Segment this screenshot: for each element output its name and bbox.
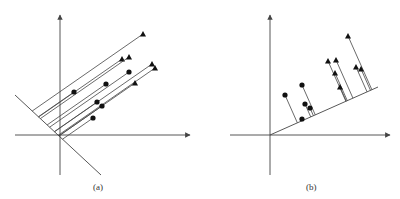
panel-b — [230, 15, 390, 175]
projection-line — [50, 72, 129, 127]
circle-point-icon — [282, 92, 287, 97]
projection-line — [328, 61, 346, 101]
projection-line — [336, 60, 353, 98]
caption-a: (a) — [93, 182, 103, 192]
projection-line — [40, 57, 129, 119]
triangle-point-icon — [126, 54, 132, 59]
projection-line — [361, 69, 370, 90]
triangle-point-icon — [149, 61, 155, 66]
projection-line — [58, 68, 155, 135]
triangle-point-icon — [358, 66, 364, 71]
projection-line — [285, 95, 297, 123]
projection-line — [59, 106, 102, 136]
projection-line — [38, 92, 74, 117]
circle-point-icon — [307, 105, 312, 110]
circle-point-icon — [71, 89, 76, 94]
circle-point-icon — [299, 82, 304, 87]
projection-line — [302, 85, 315, 115]
circle-point-icon — [302, 101, 307, 106]
circle-point-icon — [94, 99, 99, 104]
projection-line — [32, 34, 143, 111]
circle-point-icon — [103, 81, 108, 86]
caption-b: (b) — [306, 182, 317, 192]
circle-point-icon — [299, 116, 304, 121]
circle-point-icon — [99, 103, 104, 108]
triangle-point-icon — [337, 84, 343, 89]
projection-line — [348, 36, 372, 90]
projection-line — [63, 118, 93, 139]
panel-a — [15, 15, 190, 175]
triangle-point-icon — [353, 64, 359, 69]
triangle-point-icon — [325, 58, 331, 63]
projection-line — [54, 102, 97, 132]
circle-point-icon — [126, 69, 131, 74]
figure — [0, 0, 400, 199]
triangle-point-icon — [140, 31, 146, 36]
triangle-point-icon — [333, 57, 339, 62]
triangle-point-icon — [345, 33, 351, 38]
circle-point-icon — [90, 115, 95, 120]
